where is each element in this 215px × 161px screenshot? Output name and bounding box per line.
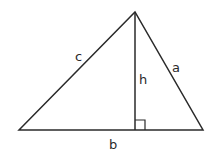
triangle-diagram: c a h b [0,0,215,161]
side-label-c: c [75,49,82,64]
right-angle-marker [135,120,145,130]
height-label-h: h [139,72,147,87]
side-label-a: a [172,60,180,75]
base-label-b: b [109,137,117,152]
